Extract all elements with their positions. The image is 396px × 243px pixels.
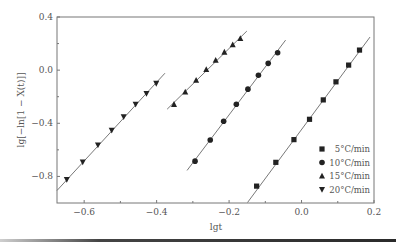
x-axis-label: lgt [210, 222, 223, 232]
legend-label: 10°C/min [329, 158, 370, 168]
series-circle [192, 50, 280, 164]
square-marker-icon [254, 184, 259, 189]
circle-marker-icon [265, 61, 271, 67]
square-marker-icon [307, 117, 312, 122]
triangle-up-marker-icon [193, 77, 199, 83]
y-tick-label: −0.8 [31, 171, 53, 181]
circle-marker-icon [192, 158, 198, 164]
y-tick-label: −0.4 [31, 118, 53, 128]
circle-marker-icon [245, 86, 251, 92]
y-axis: 0.40.0−0.4−0.8 [31, 12, 60, 181]
circle-marker-icon [256, 72, 262, 78]
square-marker-icon [357, 47, 362, 52]
circle-marker-icon [234, 101, 240, 107]
triangle-up-marker-icon [221, 49, 227, 55]
triangle-down-legend-icon [319, 187, 325, 193]
legend: 5°C/min10°C/min15°C/min20°C/min [319, 144, 371, 195]
triangle-down-marker-icon [121, 114, 127, 120]
series-square [254, 47, 362, 188]
square-marker-icon [321, 97, 326, 102]
square-marker-icon [333, 79, 338, 84]
triangle-up-legend-icon [319, 173, 325, 179]
y-axis-label: lg[−ln[1 − X(t)]] [16, 73, 26, 148]
circle-legend-icon [319, 160, 325, 166]
triangle-down-marker-icon [95, 142, 101, 148]
data-points [64, 35, 362, 189]
triangle-down-marker-icon [153, 81, 159, 87]
chart: −0.6−0.4−0.20.00.2 0.40.0−0.4−0.8 5°C/mi… [0, 0, 396, 243]
square-marker-icon [273, 160, 278, 165]
y-tick-label: 0.4 [39, 12, 54, 22]
legend-label: 15°C/min [329, 171, 370, 181]
legend-item: 20°C/min [319, 185, 371, 195]
square-legend-icon [319, 146, 324, 151]
circle-marker-icon [207, 137, 213, 143]
triangle-down-marker-icon [109, 128, 115, 134]
x-tick-label: −0.6 [73, 207, 95, 217]
legend-label: 20°C/min [329, 185, 370, 195]
square-marker-icon [291, 137, 296, 142]
square-marker-icon [346, 62, 351, 67]
legend-item: 10°C/min [319, 158, 370, 168]
plot-border [57, 17, 374, 203]
legend-item: 5°C/min [319, 144, 370, 154]
page-divider [0, 239, 396, 242]
x-tick-label: −0.2 [218, 207, 240, 217]
legend-label: 5°C/min [335, 144, 371, 154]
x-tick-label: −0.4 [146, 207, 168, 217]
triangle-down-marker-icon [133, 102, 139, 108]
y-tick-label: 0.0 [39, 65, 54, 75]
x-tick-label: 0.0 [294, 207, 309, 217]
circle-marker-icon [221, 118, 227, 124]
plot-frame [57, 17, 374, 203]
triangle-up-marker-icon [237, 35, 243, 41]
series-triangle-up [171, 35, 243, 107]
circle-marker-icon [275, 50, 281, 56]
x-tick-label: 0.2 [367, 207, 381, 217]
legend-item: 15°C/min [319, 171, 371, 181]
